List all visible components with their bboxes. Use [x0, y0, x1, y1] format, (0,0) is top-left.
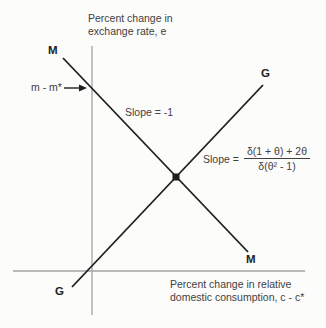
gg-slope-denominator: δ(θ² - 1) — [244, 159, 310, 172]
x-axis-label: Percent change in relative domestic cons… — [170, 278, 304, 304]
gg-label-top: G — [261, 67, 270, 79]
x-axis-label-line2: domestic consumption, c - c* — [170, 291, 304, 304]
money-shift-label: m - m* — [31, 81, 62, 94]
gg-slope-prefix: Slope = — [203, 153, 239, 165]
gg-slope-label: Slope = δ(1 + θ) + 2θ δ(θ² - 1) — [203, 145, 310, 172]
y-axis-label-line1: Percent change in — [88, 12, 173, 25]
m-mstar-arrowhead-icon — [79, 85, 87, 92]
y-axis-label: Percent change in exchange rate, e — [88, 12, 173, 38]
mm-label-bottom: M — [246, 253, 256, 265]
gg-slope-numerator: δ(1 + θ) + 2θ — [244, 145, 310, 159]
y-axis-label-line2: exchange rate, e — [88, 25, 173, 38]
exchange-rate-diagram: Percent change in exchange rate, e M G M… — [0, 0, 326, 328]
gg-slope-fraction: δ(1 + θ) + 2θ δ(θ² - 1) — [244, 145, 310, 172]
equilibrium-point — [173, 174, 180, 181]
x-axis-label-line1: Percent change in relative — [170, 278, 304, 291]
mm-slope-label: Slope = -1 — [125, 106, 173, 119]
mm-label-top: M — [48, 44, 58, 56]
gg-label-bottom: G — [55, 285, 64, 297]
